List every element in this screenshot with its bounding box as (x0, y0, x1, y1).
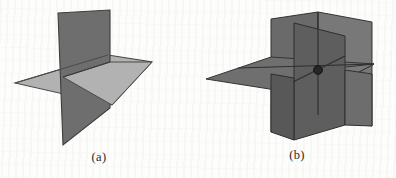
origin-dot-b (314, 66, 323, 75)
figure-panel-b: (b) (198, 0, 396, 178)
figure-panel-a: (a) (0, 0, 198, 178)
right-vertical-plane-lower-flap-b (345, 70, 372, 126)
figure-root: (a) (b) (0, 0, 396, 178)
left-vertical-plane-lower-flap-b (271, 74, 294, 140)
front-vertical-plane-b (294, 23, 345, 140)
caption-a: (a) (0, 150, 198, 165)
caption-b: (b) (198, 148, 396, 163)
